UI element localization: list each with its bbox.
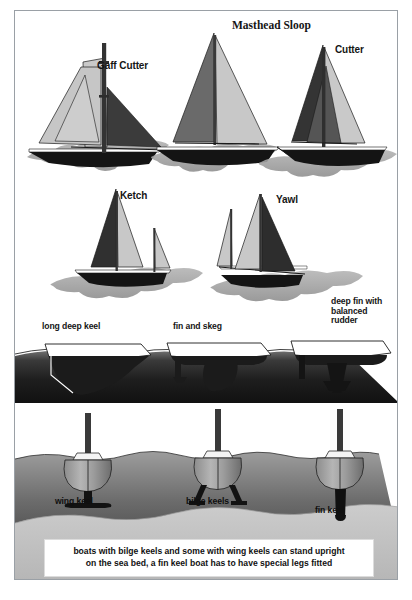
keel-section-label-fin-keel: fin keel [315,506,344,516]
caption-line-1: boats with bilge keels and some with win… [51,545,367,557]
rig-cutter [259,45,398,177]
rig-label-cutter: Cutter [335,44,364,55]
rig-yawl [210,194,363,301]
caption-line-2: on the sea bed, a fin keel boat has to h… [51,557,367,569]
rig-label-yawl: Yawl [276,194,298,205]
keel-profiles-band [15,341,398,403]
keel-profile-label-deep-fin-balanced-rudder: deep fin with balanced rudder [331,297,382,326]
rig-ketch [50,189,203,298]
figure-page: Gaff Cutter Masthead Sloop Cutter Ketch … [0,0,412,600]
deep-fin-line-3: rudder [331,316,382,326]
keel-section-label-wing-keel: wing keel [55,497,93,507]
rig-label-masthead-sloop: Masthead Sloop [232,19,311,32]
rig-label-gaff-cutter: Gaff Cutter [97,60,148,71]
keel-profile-label-long-deep-keel: long deep keel [42,322,100,332]
keel-profile-label-fin-and-skeg: fin and skeg [173,322,222,332]
diagram-frame: Gaff Cutter Masthead Sloop Cutter Ketch … [14,10,398,580]
rig-label-ketch: Ketch [120,190,147,201]
rig-masthead-sloop [151,33,279,172]
caption-strip: boats with bilge keels and some with win… [44,539,374,577]
keel-section-label-bilge-keels: bilge keels [186,497,229,507]
